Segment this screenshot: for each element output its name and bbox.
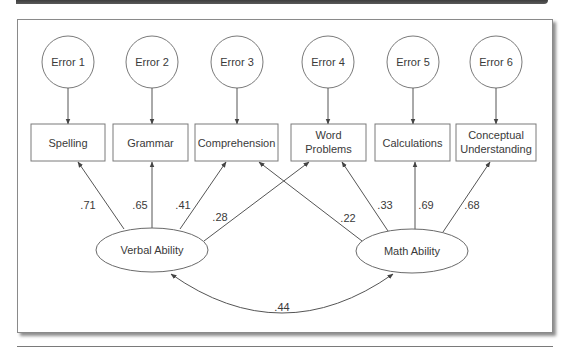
indicator-label: Calculations bbox=[383, 137, 443, 149]
indicator-comprehension: Comprehension bbox=[195, 124, 278, 161]
loading-arrow bbox=[78, 162, 124, 229]
loading-path: .71 bbox=[78, 162, 124, 229]
indicator-word-problems: WordProblems bbox=[291, 124, 366, 161]
error-label: Error 3 bbox=[220, 56, 254, 68]
error-node-5: Error 5 bbox=[387, 36, 439, 124]
loading-arrow bbox=[259, 162, 362, 241]
loading-value: .33 bbox=[377, 199, 392, 211]
loading-path: .28 bbox=[204, 162, 309, 241]
indicator-conceptual-understanding: ConceptualUnderstanding bbox=[456, 124, 536, 161]
indicator-calculations: Calculations bbox=[375, 124, 450, 161]
observed-indicators: SpellingGrammarComprehensionWordProblems… bbox=[31, 124, 536, 161]
loading-arrow bbox=[204, 162, 309, 241]
latent-factors: Verbal AbilityMath Ability bbox=[96, 228, 468, 273]
correlation-value: .44 bbox=[274, 301, 289, 313]
indicator-label: Word bbox=[315, 129, 341, 141]
loading-value: .69 bbox=[418, 199, 433, 211]
indicator-label: Conceptual bbox=[468, 129, 524, 141]
indicator-label: Comprehension bbox=[198, 137, 276, 149]
indicator-label: Problems bbox=[305, 143, 352, 155]
indicator-spelling: Spelling bbox=[31, 124, 105, 161]
error-label: Error 6 bbox=[479, 56, 513, 68]
factor-label: Verbal Ability bbox=[121, 244, 184, 256]
error-node-2: Error 2 bbox=[126, 36, 178, 124]
loading-arrow bbox=[443, 162, 490, 232]
loading-value: .68 bbox=[464, 199, 479, 211]
error-terms: Error 1Error 2Error 3Error 4Error 5Error… bbox=[42, 36, 522, 124]
loading-path: .69 bbox=[415, 162, 434, 230]
error-node-6: Error 6 bbox=[470, 36, 522, 124]
error-node-4: Error 4 bbox=[302, 36, 354, 124]
error-label: Error 1 bbox=[51, 56, 85, 68]
loading-path: .68 bbox=[443, 162, 490, 232]
error-label: Error 5 bbox=[396, 56, 430, 68]
indicator-label: Understanding bbox=[460, 143, 532, 155]
loading-value: .65 bbox=[132, 199, 147, 211]
error-node-1: Error 1 bbox=[42, 36, 94, 124]
error-label: Error 4 bbox=[311, 56, 345, 68]
indicator-grammar: Grammar bbox=[113, 124, 188, 161]
factor-math: Math Ability bbox=[356, 229, 468, 273]
loading-value: .28 bbox=[212, 211, 227, 223]
indicator-label: Spelling bbox=[48, 137, 87, 149]
loading-path: .22 bbox=[259, 162, 362, 241]
loading-value: .22 bbox=[340, 212, 355, 224]
sem-path-diagram: Error 1Error 2Error 3Error 4Error 5Error… bbox=[0, 0, 574, 352]
error-node-3: Error 3 bbox=[211, 36, 263, 124]
error-label: Error 2 bbox=[135, 56, 169, 68]
loading-value: .71 bbox=[80, 199, 95, 211]
factor-label: Math Ability bbox=[384, 245, 441, 257]
indicator-label: Grammar bbox=[127, 137, 174, 149]
loading-value: .41 bbox=[175, 199, 190, 211]
factor-verbal: Verbal Ability bbox=[96, 228, 208, 272]
loading-path: .65 bbox=[132, 162, 152, 228]
factor-correlation: .44 bbox=[171, 274, 393, 313]
